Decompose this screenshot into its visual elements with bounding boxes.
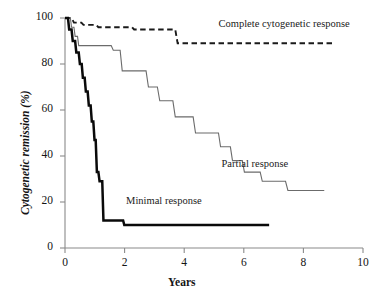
y-tick-label: 40 <box>23 148 53 160</box>
x-axis-ticks <box>65 248 363 253</box>
x-tick-label: 10 <box>350 256 376 268</box>
x-axis-title: Years <box>168 276 195 288</box>
y-tick-label: 80 <box>23 56 53 68</box>
series-line-2 <box>65 18 269 225</box>
y-tick-label: 20 <box>23 194 53 206</box>
data-series-layer <box>65 18 335 225</box>
y-tick-label: 60 <box>23 102 53 114</box>
y-axis-ticks <box>60 18 65 248</box>
y-tick-label: 0 <box>23 240 53 252</box>
x-tick-label: 0 <box>52 256 78 268</box>
x-tick-label: 8 <box>290 256 316 268</box>
series-label-partial-response: Partial response <box>222 158 289 169</box>
x-tick-label: 2 <box>112 256 138 268</box>
x-tick-label: 4 <box>171 256 197 268</box>
series-label-minimal-response: Minimal response <box>126 195 202 206</box>
y-tick-label: 100 <box>23 10 53 22</box>
series-label-complete-cytogenetic-response: Complete cytogenetic response <box>219 18 350 29</box>
kaplan-meier-chart <box>0 0 386 300</box>
x-tick-label: 6 <box>231 256 257 268</box>
